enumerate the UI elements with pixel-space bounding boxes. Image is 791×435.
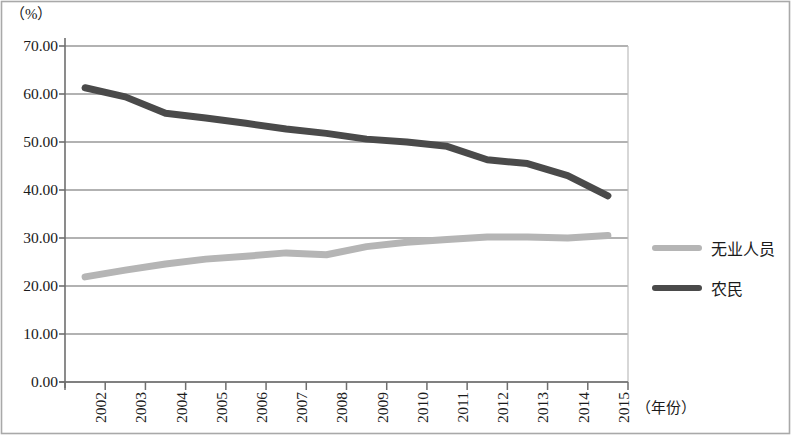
legend: 无业人员 农民	[652, 228, 791, 308]
series-line-unemployed	[85, 236, 608, 277]
legend-item-farmers: 农民	[652, 268, 791, 308]
legend-color-swatch	[652, 285, 702, 291]
x-tick-label: 2003	[133, 392, 149, 423]
legend-label: 农民	[711, 276, 743, 300]
x-tick-label: 2011	[455, 392, 471, 422]
x-tick-label: 2013	[535, 392, 551, 423]
x-tick-label: 2005	[214, 392, 230, 423]
x-tick-label: 2014	[576, 392, 592, 423]
x-tick-label: 2004	[174, 392, 190, 423]
x-tick-label: 2002	[93, 392, 109, 423]
x-axis-title: （年份）	[636, 396, 696, 417]
x-tick-label: 2007	[294, 392, 310, 423]
legend-item-unemployed: 无业人员	[652, 228, 791, 268]
x-tick-label: 2008	[334, 392, 350, 423]
line-chart: （%） 70.00 60.00 50.00 40.00 30.00 20.00 …	[0, 0, 791, 435]
x-tick-label: 2015	[616, 392, 632, 423]
x-tick-label: 2009	[375, 392, 391, 423]
x-tick-label: 2012	[495, 392, 511, 423]
x-tick-label: 2010	[415, 392, 431, 423]
chart-frame	[2, 2, 790, 434]
plot-area	[0, 0, 791, 435]
x-tick-label: 2006	[254, 392, 270, 423]
legend-color-swatch	[652, 245, 702, 251]
legend-label: 无业人员	[711, 236, 775, 260]
